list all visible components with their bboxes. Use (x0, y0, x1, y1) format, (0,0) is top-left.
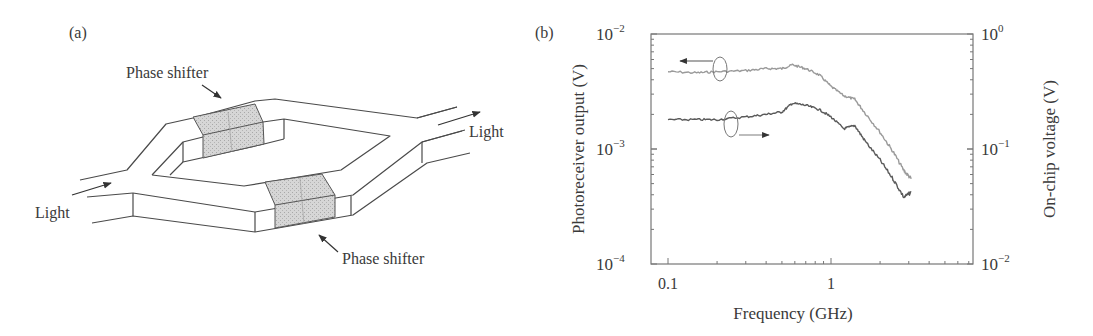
y-right-axis-title: On-chip voltage (V) (1040, 80, 1059, 218)
panel-b-chart: (b) 10−2 10−3 10−4 100 10−1 10−2 0.1 1 F… (535, 22, 1059, 323)
panel-a-diagram: (a) (35, 24, 504, 267)
phase-shifter-top (193, 104, 264, 158)
x-tick-label: 0.1 (658, 275, 678, 292)
y-left-axis-title: Photoreceiver output (V) (569, 64, 588, 234)
axis-ticks (651, 34, 973, 264)
x-axis-title: Frequency (GHz) (733, 304, 852, 323)
onchip-voltage-series (668, 103, 911, 198)
plot-frame (651, 34, 973, 264)
phase-shifter-top-label: Phase shifter (126, 64, 209, 81)
y-left-tick-labels: 10−2 10−3 10−4 (596, 22, 625, 274)
figure-canvas: (a) (0, 0, 1093, 336)
panel-b-label: (b) (535, 24, 554, 42)
light-input-label: Light (35, 204, 70, 222)
y-right-tick-labels: 100 10−1 10−2 (981, 22, 1010, 274)
light-output-label: Light (469, 123, 504, 141)
x-tick-label: 1 (827, 275, 835, 292)
photoreceiver-output-series (668, 64, 911, 179)
phase-shifter-bottom-label: Phase shifter (342, 250, 425, 267)
svg-text:100: 100 (981, 22, 1004, 44)
svg-text:10−4: 10−4 (596, 252, 625, 274)
panel-a-label: (a) (69, 24, 87, 42)
arrow-icon (319, 235, 338, 252)
arrow-icon (202, 85, 221, 98)
svg-text:10−2: 10−2 (596, 22, 625, 44)
svg-text:10−3: 10−3 (596, 137, 625, 159)
svg-text:10−1: 10−1 (981, 137, 1010, 159)
left-axis-indicator (680, 57, 727, 81)
svg-text:10−2: 10−2 (981, 252, 1010, 274)
arrow-icon (72, 183, 111, 195)
